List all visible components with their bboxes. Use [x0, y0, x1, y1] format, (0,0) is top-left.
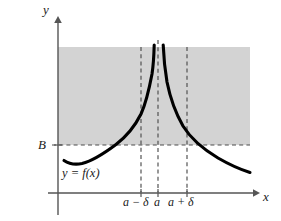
bound-label-B: B: [38, 138, 46, 151]
function-label: y = f(x): [62, 167, 100, 180]
figure-container: y x B y = f(x) a − δ a a + δ: [0, 0, 281, 221]
graph-canvas: [0, 0, 281, 221]
y-axis-label: y: [43, 3, 49, 16]
x-axis-arrowhead: [253, 189, 260, 197]
x-tick-label-a-plus-delta: a + δ: [168, 196, 194, 208]
x-tick-label-a: a: [154, 196, 160, 208]
x-tick-label-a-minus-delta: a − δ: [123, 196, 149, 208]
y-axis-arrowhead: [54, 16, 62, 23]
x-axis-label: x: [263, 190, 269, 203]
